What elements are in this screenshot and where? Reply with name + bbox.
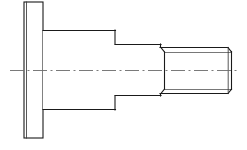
main-body-group bbox=[43, 30, 116, 110]
technical-drawing-canvas bbox=[0, 0, 247, 150]
flange-head-group bbox=[24, 2, 43, 138]
shoulder-screw-drawing bbox=[0, 0, 247, 150]
mid-shaft-group bbox=[115, 44, 161, 96]
mid-shaft-fill bbox=[115, 44, 160, 96]
main-body-fill bbox=[43, 30, 115, 110]
